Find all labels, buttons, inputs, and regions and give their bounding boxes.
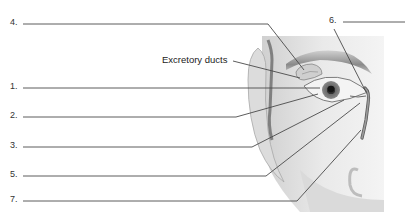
label-1: 1.	[10, 82, 18, 91]
label-7: 7.	[10, 195, 18, 204]
face-illustration	[248, 36, 384, 212]
pupil	[328, 86, 334, 92]
label-4: 4.	[10, 18, 18, 27]
label-3: 3.	[10, 141, 18, 150]
excretory-ducts-label: Excretory ducts	[162, 55, 227, 65]
label-6: 6.	[329, 16, 337, 25]
eye-anatomy-diagram	[0, 0, 405, 212]
label-5: 5.	[10, 170, 18, 179]
label-2: 2.	[10, 111, 18, 120]
